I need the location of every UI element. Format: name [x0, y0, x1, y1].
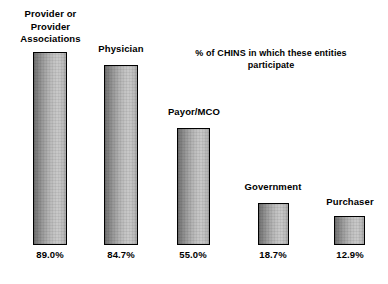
- category-label-line-1: Physician: [82, 43, 160, 56]
- category-label-line-1: Purchaser: [312, 196, 388, 209]
- bar-value-label-payor-mco: 55.0%: [168, 249, 218, 260]
- bar-texture: [105, 66, 137, 244]
- bar-category-label-payor-mco: Payor/MCO: [155, 106, 233, 119]
- chart-title-line-2: participate: [158, 59, 384, 71]
- bar-category-label-provider-associations: Provider or Provider Associations: [0, 8, 103, 46]
- bar-texture: [259, 204, 288, 244]
- bar-value-label-provider-associations: 89.0%: [25, 249, 75, 260]
- bar-government[interactable]: [258, 203, 289, 245]
- bar-value-label-purchaser: 12.9%: [325, 249, 375, 260]
- bar-value-label-physician: 84.7%: [96, 249, 146, 260]
- bar-physician[interactable]: [104, 65, 138, 245]
- chart-title-line-1: % of CHINS in which these entities: [158, 47, 384, 59]
- bar-category-label-government: Government: [232, 181, 314, 194]
- bar-provider-associations[interactable]: [33, 52, 67, 245]
- chart-title: % of CHINS in which these entities parti…: [158, 47, 384, 71]
- bar-texture: [34, 53, 66, 244]
- bar-category-label-purchaser: Purchaser: [312, 196, 388, 209]
- category-label-line-2: Provider: [0, 21, 103, 34]
- bar-value-label-government: 18.7%: [248, 249, 298, 260]
- category-label-line-1: Government: [232, 181, 314, 194]
- category-label-line-1: Provider or: [0, 8, 103, 21]
- bar-category-label-physician: Physician: [82, 43, 160, 56]
- bar-texture: [335, 217, 364, 244]
- bar-texture: [178, 129, 209, 244]
- bar-payor-mco[interactable]: [177, 128, 210, 245]
- bar-purchaser[interactable]: [334, 216, 365, 245]
- category-label-line-1: Payor/MCO: [155, 106, 233, 119]
- bar-chart: % of CHINS in which these entities parti…: [0, 0, 388, 284]
